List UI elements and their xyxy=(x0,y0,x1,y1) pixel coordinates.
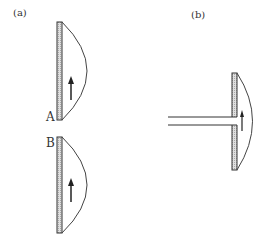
diagram-canvas xyxy=(0,0,270,250)
arrow-up-icon xyxy=(240,110,244,131)
plate-a xyxy=(57,22,87,120)
arrow-up-icon xyxy=(68,178,74,202)
arrow-up-icon xyxy=(68,76,74,100)
plate-b xyxy=(57,137,87,233)
plate-with-tube xyxy=(168,73,253,170)
